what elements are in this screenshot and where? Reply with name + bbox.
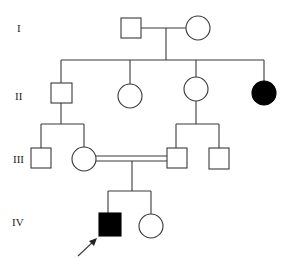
pedigree-chart: I II III IV: [0, 0, 287, 268]
individual-II-2-female: [118, 84, 142, 108]
individual-III-1-male: [31, 148, 51, 168]
individual-III-4-male: [209, 148, 229, 169]
individual-I-1-male: [121, 18, 141, 38]
generation-label-2: II: [15, 90, 23, 102]
generation-label-4: IV: [12, 216, 24, 228]
individual-IV-2-female: [139, 214, 163, 238]
generation-label-1: I: [17, 22, 21, 34]
individual-IV-1-male-affected-proband: [99, 213, 121, 236]
individual-III-2-female: [72, 147, 96, 171]
individual-III-3-male: [167, 148, 187, 168]
individual-II-3-female: [184, 77, 208, 101]
individual-II-1-male: [51, 83, 72, 103]
individual-I-2-female: [186, 16, 210, 40]
individual-II-4-female-affected: [252, 81, 276, 105]
generation-label-3: III: [13, 153, 24, 165]
